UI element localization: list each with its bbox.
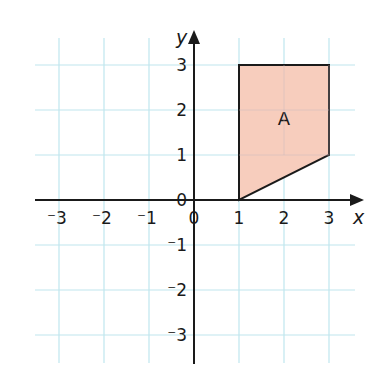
y-tick-label: 3 (176, 55, 187, 75)
y-tick-label: 2 (176, 100, 187, 120)
x-tick-label: 1 (234, 208, 245, 228)
x-tick-label: ⁻3 (47, 208, 67, 228)
y-axis-arrow-icon (188, 30, 200, 44)
x-tick-label: ⁻2 (92, 208, 112, 228)
coordinate-plane: A xy ⁻3⁻2⁻10123⁻3⁻2⁻10123 (0, 0, 382, 389)
x-tick-label: 2 (279, 208, 290, 228)
y-axis-label: y (175, 26, 188, 48)
x-tick-label: 0 (189, 208, 200, 228)
x-tick-label: ⁻1 (137, 208, 157, 228)
x-axis-label: x (352, 206, 365, 228)
y-tick-label: ⁻2 (167, 280, 187, 300)
x-tick-label: 3 (324, 208, 335, 228)
y-tick-label: ⁻1 (167, 235, 187, 255)
y-tick-label: 0 (176, 190, 187, 210)
y-tick-label: ⁻3 (167, 325, 187, 345)
x-axis-arrow-icon (350, 194, 364, 206)
y-tick-label: 1 (176, 145, 187, 165)
